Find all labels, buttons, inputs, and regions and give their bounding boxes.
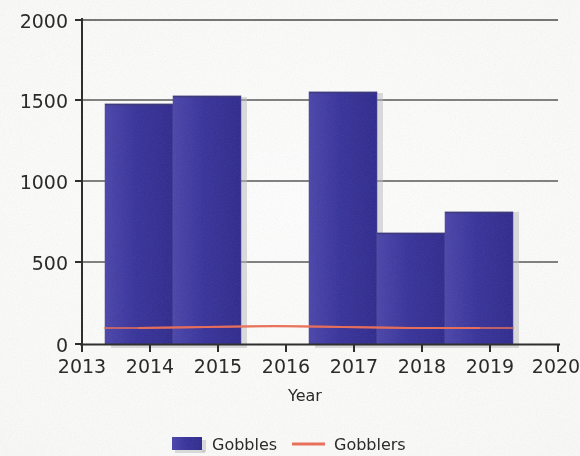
x-tick-label-2020: 2020	[532, 355, 580, 377]
x-tick-label-2014: 2014	[126, 355, 174, 377]
y-tick-labels: 2000 1500 1000 500 0	[20, 10, 68, 356]
x-tick-label-2013: 2013	[58, 355, 106, 377]
legend-item-gobbles: Gobbles	[172, 435, 277, 454]
x-tick-labels: 2013 2014 2015 2016 2017 2018 2019 2020	[58, 355, 580, 377]
y-tick-label-500: 500	[32, 252, 68, 274]
legend: Gobbles Gobblers	[172, 435, 406, 454]
y-tick-label-1500: 1500	[20, 90, 68, 112]
x-tick-label-2016: 2016	[262, 355, 310, 377]
bar-2017	[309, 92, 377, 344]
bar-2015	[173, 96, 241, 344]
bar-2019	[445, 212, 513, 344]
y-tick-label-0: 0	[56, 334, 68, 356]
bar-2014	[105, 104, 173, 344]
x-tick-label-2018: 2018	[398, 355, 446, 377]
x-axis-title: Year	[287, 386, 322, 405]
legend-item-gobblers: Gobblers	[292, 435, 406, 454]
gobbles-bar-chart: 2000 1500 1000 500 0 2013 2014 2015 2016…	[0, 0, 580, 456]
x-tick-label-2017: 2017	[330, 355, 378, 377]
legend-swatch-gobbles	[172, 437, 202, 450]
x-tick-label-2019: 2019	[466, 355, 514, 377]
legend-label-gobbles: Gobbles	[212, 435, 277, 454]
legend-label-gobblers: Gobblers	[334, 435, 406, 454]
y-tick-label-1000: 1000	[20, 171, 68, 193]
bars-group	[105, 92, 519, 348]
x-tick-label-2015: 2015	[194, 355, 242, 377]
y-axis-ticks	[75, 20, 82, 344]
y-tick-label-2000: 2000	[20, 10, 68, 32]
